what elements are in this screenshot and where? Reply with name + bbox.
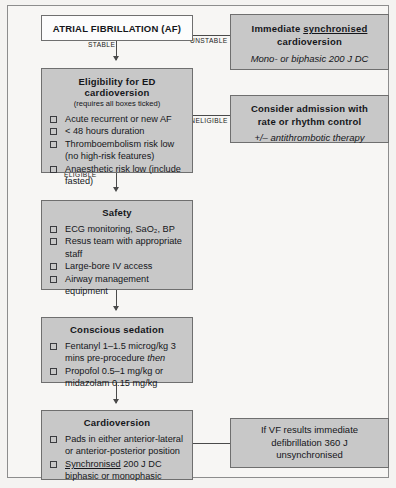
cardioversion-item2-underlined: Synchronised bbox=[65, 459, 121, 469]
immediate-title-pre: Immediate bbox=[252, 23, 304, 34]
eligibility-item-label: < 48 hours duration bbox=[65, 125, 186, 137]
node-conscious-sedation-title: Conscious sedation bbox=[48, 324, 186, 335]
checkbox-icon[interactable] bbox=[50, 116, 57, 123]
sedation-checklist-item[interactable]: Fentanyl 1–1.5 microg/kg 3 mins pre-proc… bbox=[48, 340, 186, 365]
flowchart-page: UNSTABLE STABLE INELIGIBLE ELIGIBLE ATRI… bbox=[0, 0, 396, 488]
checkbox-icon[interactable] bbox=[50, 368, 57, 375]
safety-item-label: ECG monitoring, SaO₂, BP bbox=[65, 223, 186, 235]
vf-line3: unsynchronised bbox=[276, 449, 343, 460]
vf-line2: defibrillation 360 J bbox=[271, 437, 348, 448]
node-cardioversion[interactable]: Cardioversion Pads in either anterior-la… bbox=[41, 410, 193, 480]
consider-title-line2: rate or rhythm control bbox=[258, 116, 362, 127]
checkbox-icon[interactable] bbox=[50, 436, 57, 443]
diagram-frame: UNSTABLE STABLE INELIGIBLE ELIGIBLE ATRI… bbox=[7, 5, 389, 478]
node-atrial-fibrillation-title: ATRIAL FIBRILLATION (AF) bbox=[53, 23, 181, 34]
checkbox-icon[interactable] bbox=[50, 166, 57, 173]
eligibility-checklist-item[interactable]: Thromboembolism risk low (no high-risk f… bbox=[48, 138, 186, 163]
checkbox-icon[interactable] bbox=[50, 461, 57, 468]
sedation-checklist-item[interactable]: Propofol 0.5–1 mg/kg or midazolam 0.15 m… bbox=[48, 365, 186, 390]
safety-item-label: Airway management equipment bbox=[65, 273, 186, 298]
sedation-checklist: Fentanyl 1–1.5 microg/kg 3 mins pre-proc… bbox=[48, 340, 186, 390]
edge-safety-to-sedation-arrowhead bbox=[113, 306, 119, 311]
node-conscious-sedation[interactable]: Conscious sedation Fentanyl 1–1.5 microg… bbox=[41, 317, 193, 383]
checkbox-icon[interactable] bbox=[50, 238, 57, 245]
sedation-item1-italic: then bbox=[147, 353, 165, 363]
edge-label-unstable: UNSTABLE bbox=[190, 37, 228, 44]
node-eligibility-subtitle: (requires all boxes ticked) bbox=[48, 99, 186, 108]
node-eligibility-title: Eligibility for ED cardioversion bbox=[48, 76, 186, 98]
eligibility-item-label: Acute recurrent or new AF bbox=[65, 113, 186, 125]
safety-item-label: Large-bore IV access bbox=[65, 260, 186, 272]
safety-checklist-item[interactable]: Large-bore IV access bbox=[48, 260, 186, 272]
cardioversion-checklist-item[interactable]: Synchronised 200 J DC biphasic or monoph… bbox=[48, 458, 186, 483]
eligibility-checklist: Acute recurrent or new AF < 48 hours dur… bbox=[48, 113, 186, 187]
eligibility-item-label: Anaesthetic risk low (include fasted) bbox=[65, 163, 186, 188]
cardioversion-checklist: Pads in either anterior-lateral or anter… bbox=[48, 433, 186, 483]
checkbox-icon[interactable] bbox=[50, 141, 57, 148]
sedation-item-label: Propofol 0.5–1 mg/kg or midazolam 0.15 m… bbox=[65, 365, 186, 390]
immediate-title-line2: cardioversion bbox=[277, 36, 342, 47]
cardioversion-item-label: Synchronised 200 J DC biphasic or monoph… bbox=[65, 458, 186, 483]
cardioversion-checklist-item[interactable]: Pads in either anterior-lateral or anter… bbox=[48, 433, 186, 458]
eligibility-checklist-item[interactable]: < 48 hours duration bbox=[48, 125, 186, 137]
edge-sedation-to-cardioversion-arrowhead bbox=[113, 399, 119, 404]
immediate-title-underlined: synchronised bbox=[303, 23, 367, 34]
edge-label-stable: STABLE bbox=[88, 41, 115, 48]
node-consider-admission-subtitle: +/– antithrombotic therapy bbox=[239, 132, 380, 143]
node-safety-title: Safety bbox=[48, 207, 186, 218]
edge-eligible-arrowhead bbox=[113, 187, 119, 192]
node-consider-admission[interactable]: Consider admission with rate or rhythm c… bbox=[230, 95, 389, 143]
checkbox-icon[interactable] bbox=[50, 343, 57, 350]
node-eligibility[interactable]: Eligibility for ED cardioversion (requir… bbox=[41, 68, 193, 173]
eligibility-item-label: Thromboembolism risk low (no high-risk f… bbox=[65, 138, 186, 163]
safety-checklist-item[interactable]: Resus team with appropriate staff bbox=[48, 235, 186, 260]
node-safety[interactable]: Safety ECG monitoring, SaO₂, BP Resus te… bbox=[41, 200, 193, 290]
node-immediate-cardioversion[interactable]: Immediate synchronised cardioversion Mon… bbox=[230, 14, 389, 70]
node-immediate-cardioversion-subtitle: Mono- or biphasic 200 J DC bbox=[239, 53, 380, 64]
edge-stable-arrowhead bbox=[113, 56, 119, 61]
checkbox-icon[interactable] bbox=[50, 226, 57, 233]
checkbox-icon[interactable] bbox=[50, 128, 57, 135]
node-atrial-fibrillation[interactable]: ATRIAL FIBRILLATION (AF) bbox=[41, 15, 193, 41]
cardioversion-item-label: Pads in either anterior-lateral or anter… bbox=[65, 433, 186, 458]
consider-title-line1: Consider admission with bbox=[251, 103, 368, 114]
node-consider-admission-title: Consider admission with rate or rhythm c… bbox=[239, 103, 380, 128]
vf-line1: If VF results immediate bbox=[261, 424, 358, 435]
safety-checklist-item[interactable]: Airway management equipment bbox=[48, 273, 186, 298]
eligibility-checklist-item[interactable]: Acute recurrent or new AF bbox=[48, 113, 186, 125]
node-vf-result-text: If VF results immediate defibrillation 3… bbox=[261, 424, 358, 462]
safety-item-label: Resus team with appropriate staff bbox=[65, 235, 186, 260]
eligibility-checklist-item[interactable]: Anaesthetic risk low (include fasted) bbox=[48, 163, 186, 188]
safety-checklist-item[interactable]: ECG monitoring, SaO₂, BP bbox=[48, 223, 186, 235]
edge-label-ineligible: INELIGIBLE bbox=[188, 117, 228, 124]
node-vf-result[interactable]: If VF results immediate defibrillation 3… bbox=[230, 418, 389, 468]
node-immediate-cardioversion-title: Immediate synchronised cardioversion bbox=[239, 23, 380, 48]
sedation-item-label: Fentanyl 1–1.5 microg/kg 3 mins pre-proc… bbox=[65, 340, 186, 365]
safety-checklist: ECG monitoring, SaO₂, BP Resus team with… bbox=[48, 223, 186, 297]
checkbox-icon[interactable] bbox=[50, 276, 57, 283]
checkbox-icon[interactable] bbox=[50, 263, 57, 270]
node-cardioversion-title: Cardioversion bbox=[48, 417, 186, 428]
